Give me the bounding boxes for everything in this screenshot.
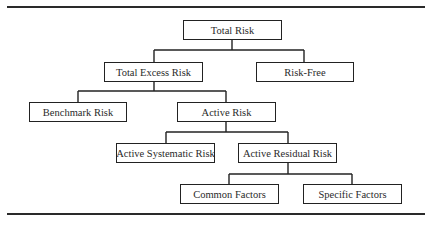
- node-risk-free: Risk-Free: [256, 62, 354, 82]
- node-common-factors: Common Factors: [180, 184, 279, 204]
- node-active-systematic-risk: Active Systematic Risk: [116, 143, 215, 163]
- node-specific-factors: Specific Factors: [303, 184, 402, 204]
- node-active-risk: Active Risk: [177, 102, 276, 122]
- node-benchmark-risk: Benchmark Risk: [29, 102, 127, 122]
- node-active-residual-risk: Active Residual Risk: [238, 143, 337, 163]
- bottom-rule: [7, 213, 425, 215]
- node-total-risk: Total Risk: [183, 20, 282, 40]
- node-total-excess-risk: Total Excess Risk: [104, 62, 203, 82]
